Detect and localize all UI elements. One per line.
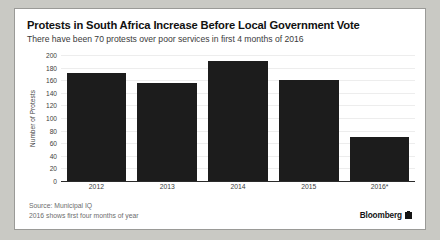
bar-slot bbox=[273, 55, 344, 181]
x-axis-tick: 2012 bbox=[61, 183, 132, 190]
bar-slot bbox=[61, 55, 132, 181]
y-axis-tick: 20 bbox=[50, 165, 57, 172]
bar-slot bbox=[344, 55, 415, 181]
y-axis-tick: 200 bbox=[46, 52, 57, 59]
x-axis-tick: 2016* bbox=[344, 183, 415, 190]
y-axis-label: Number of Protests bbox=[26, 55, 38, 181]
chart-inner: Protests in South Africa Increase Before… bbox=[15, 9, 425, 229]
x-axis-ticks: 20122013201420152016* bbox=[61, 183, 415, 190]
note-text: 2016 shows first four months of year bbox=[29, 211, 139, 221]
x-axis-tick: 2015 bbox=[273, 183, 344, 190]
bar[interactable] bbox=[208, 61, 267, 181]
y-axis-tick: 140 bbox=[46, 89, 57, 96]
bar[interactable] bbox=[67, 73, 126, 181]
y-axis-tick: 0 bbox=[53, 178, 57, 185]
chart-card: Protests in South Africa Increase Before… bbox=[14, 8, 426, 230]
y-axis-tick: 120 bbox=[46, 102, 57, 109]
y-axis-tick: 100 bbox=[46, 115, 57, 122]
y-axis-tick: 160 bbox=[46, 77, 57, 84]
chart-title: Protests in South Africa Increase Before… bbox=[27, 19, 413, 32]
brand-name: Bloomberg bbox=[360, 211, 402, 220]
plot-area: Number of Protests 020406080100120140160… bbox=[27, 55, 415, 201]
bloomberg-logo-icon bbox=[405, 212, 412, 219]
chart-subtitle: There have been 70 protests over poor se… bbox=[27, 34, 413, 45]
y-axis-label-text: Number of Protests bbox=[29, 90, 36, 147]
bloomberg-brand: Bloomberg bbox=[360, 211, 412, 220]
y-axis-tick: 40 bbox=[50, 152, 57, 159]
y-axis-tick: 60 bbox=[50, 140, 57, 147]
plot-canvas bbox=[61, 55, 415, 182]
bar-slot bbox=[132, 55, 203, 181]
y-axis-tick: 80 bbox=[50, 127, 57, 134]
bar[interactable] bbox=[137, 83, 196, 181]
x-axis-tick: 2013 bbox=[132, 183, 203, 190]
source-text: Source: Municipal IQ bbox=[29, 201, 139, 211]
y-axis-tick: 180 bbox=[46, 64, 57, 71]
bar[interactable] bbox=[350, 137, 409, 181]
x-axis-tick: 2014 bbox=[203, 183, 274, 190]
bar-series bbox=[61, 55, 415, 181]
y-axis-ticks: 020406080100120140160180200 bbox=[39, 55, 59, 181]
bar-slot bbox=[203, 55, 274, 181]
footnotes: Source: Municipal IQ 2016 shows first fo… bbox=[29, 201, 139, 220]
bar[interactable] bbox=[279, 80, 338, 181]
